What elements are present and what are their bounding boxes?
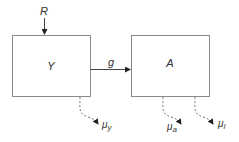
compartment-a-label: A — [165, 57, 173, 69]
compartment-y-label: Y — [47, 60, 55, 72]
compartment-a: A — [132, 36, 210, 97]
input-r-label: R — [40, 5, 48, 17]
input-r: R — [40, 5, 48, 34]
compartment-diagram: Y A R g μy μa μl — [0, 0, 239, 142]
outflow-mu-l-label: μl — [217, 118, 225, 131]
flow-g-label: g — [108, 56, 115, 68]
outflow-mu-y: μy — [80, 97, 113, 132]
outflow-mu-l: μl — [195, 97, 226, 131]
outflow-mu-a-arrow-icon — [163, 97, 181, 124]
outflow-mu-l-arrow-icon — [195, 97, 213, 124]
compartment-y: Y — [13, 36, 91, 97]
outflow-mu-a-label: μa — [166, 121, 177, 134]
outflow-mu-y-label: μy — [101, 119, 112, 132]
outflow-mu-a: μa — [163, 97, 181, 134]
flow-g: g — [91, 56, 131, 70]
outflow-mu-y-arrow-icon — [80, 97, 98, 124]
